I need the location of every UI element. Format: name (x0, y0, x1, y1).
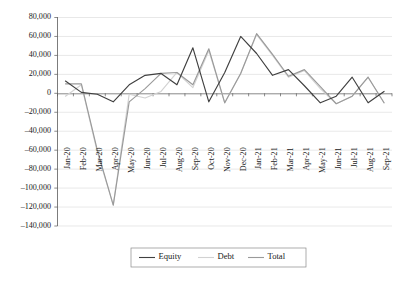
y-axis-label: –100,000 (20, 183, 51, 192)
chart-container: 80,00060,00040,00020,0000–20,000–40,000–… (0, 0, 404, 287)
x-axis-label: Oct-20 (207, 147, 216, 169)
y-axis-label: –140,000 (20, 221, 51, 230)
x-axis-label: Apr-21 (302, 147, 311, 170)
x-axis-label: Jun-21 (334, 147, 343, 169)
y-axis-label: –20,000 (24, 107, 51, 116)
x-axis-label: May-21 (318, 147, 327, 173)
y-axis-label: 20,000 (29, 69, 51, 78)
legend-label-equity[interactable]: Equity (159, 251, 183, 261)
x-axis-label: Mar-21 (286, 147, 295, 171)
x-axis-label: Feb-20 (79, 147, 88, 170)
y-axis-label: 60,000 (29, 31, 51, 40)
x-axis-label: Dec-20 (239, 147, 248, 171)
line-chart-figure: 80,00060,00040,00020,0000–20,000–40,000–… (0, 0, 404, 287)
x-axis-label: Sep-20 (191, 147, 200, 170)
x-axis-label: Aug-20 (175, 147, 184, 172)
y-axis-label: –120,000 (20, 202, 51, 211)
x-axis-label: Sep-21 (382, 147, 391, 170)
x-axis-label: Mar-20 (95, 147, 104, 171)
x-axis-label: May-20 (127, 147, 136, 173)
legend-label-debt[interactable]: Debt (218, 251, 235, 261)
y-axis-label: 40,000 (29, 50, 51, 59)
y-axis-label: 80,000 (29, 12, 51, 21)
legend-label-total[interactable]: Total (268, 251, 286, 261)
x-axis-label: Aug-21 (366, 147, 375, 172)
y-axis-label: 0 (47, 88, 51, 97)
x-axis-label: Feb-21 (270, 147, 279, 170)
x-axis-label: Jul-20 (159, 147, 168, 167)
x-axis-label: Jan-21 (254, 147, 263, 169)
x-axis-label: Jan-20 (63, 147, 72, 169)
x-axis-label: Apr-20 (111, 147, 120, 170)
x-axis-tick-labels: Jan-20Feb-20Mar-20Apr-20May-20Jun-20Jul-… (63, 147, 391, 173)
y-axis-label: –60,000 (24, 145, 51, 154)
chart-background (0, 0, 404, 287)
chart-legend[interactable]: EquityDebtTotal (131, 248, 306, 267)
x-axis-label: Jun-20 (143, 147, 152, 169)
x-axis-label: Jul-21 (350, 147, 359, 167)
y-axis-label: –80,000 (24, 164, 51, 173)
x-axis-label: Nov-20 (223, 147, 232, 172)
y-axis-label: –40,000 (24, 126, 51, 135)
